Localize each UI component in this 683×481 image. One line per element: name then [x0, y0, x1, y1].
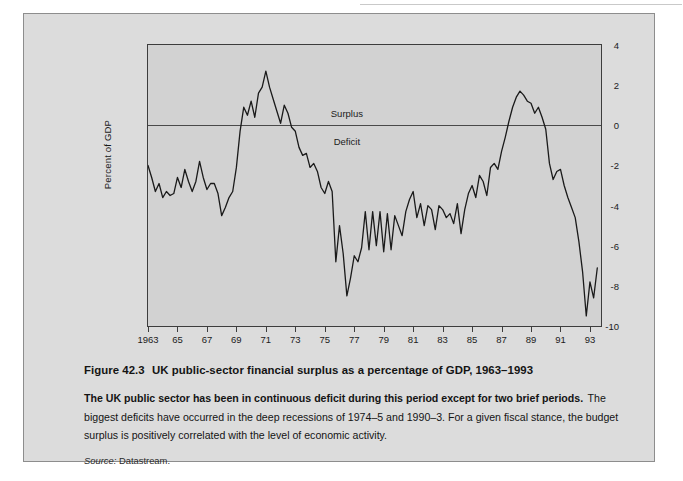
x-tick-label: 79 — [378, 334, 389, 345]
page-hairline — [360, 4, 682, 5]
figure-title: UK public-sector financial surplus as a … — [152, 364, 533, 376]
x-tick-mark — [590, 327, 591, 332]
x-tick-label: 1963 — [137, 334, 158, 345]
x-tick-mark — [295, 327, 296, 332]
x-tick-mark — [354, 327, 355, 332]
x-tick-label: 75 — [319, 334, 330, 345]
x-tick-label: 93 — [585, 334, 596, 345]
x-tick-label: 69 — [231, 334, 242, 345]
caption-title-line: Figure 42.3 UK public-sector financial s… — [84, 364, 640, 376]
x-tick-label: 89 — [526, 334, 537, 345]
x-tick-mark — [531, 327, 532, 332]
x-tick-mark — [443, 327, 444, 332]
x-tick-mark — [560, 327, 561, 332]
x-tick-mark — [177, 327, 178, 332]
caption-text: The UK public sector has been in continu… — [84, 388, 640, 444]
figure-panel: Percent of GDP 420-2-4-6-8-10 1963656769… — [23, 13, 655, 462]
source-label: Source: — [84, 455, 116, 466]
source-value: Datastream. — [119, 455, 170, 466]
chart-container: Percent of GDP 420-2-4-6-8-10 1963656769… — [61, 31, 625, 349]
x-tick-label: 91 — [555, 334, 566, 345]
x-tick-mark — [325, 327, 326, 332]
x-tick-label: 73 — [290, 334, 301, 345]
x-tick-mark — [384, 327, 385, 332]
x-tick-mark — [413, 327, 414, 332]
y-axis-title: Percent of GDP — [102, 95, 113, 215]
x-tick-mark — [207, 327, 208, 332]
caption-lead: The UK public sector has been in continu… — [84, 392, 583, 404]
x-tick-mark — [148, 327, 149, 332]
series-path — [148, 71, 597, 316]
x-tick-label: 81 — [408, 334, 419, 345]
x-tick-mark — [472, 327, 473, 332]
x-tick-mark — [502, 327, 503, 332]
figure-caption: Figure 42.3 UK public-sector financial s… — [84, 364, 640, 466]
x-tick-label: 65 — [172, 334, 183, 345]
plot-area: SurplusDeficit — [147, 44, 602, 327]
x-tick-label: 77 — [349, 334, 360, 345]
x-tick-label: 71 — [261, 334, 272, 345]
x-tick-label: 67 — [202, 334, 213, 345]
caption-source: Source: Datastream. — [84, 455, 640, 466]
x-tick-label: 85 — [467, 334, 478, 345]
figure-number: Figure 42.3 — [84, 364, 145, 376]
x-tick-mark — [266, 327, 267, 332]
x-tick-label: 83 — [437, 334, 448, 345]
x-tick-mark — [236, 327, 237, 332]
surplus-line-series — [148, 45, 601, 326]
x-tick-label: 87 — [496, 334, 507, 345]
